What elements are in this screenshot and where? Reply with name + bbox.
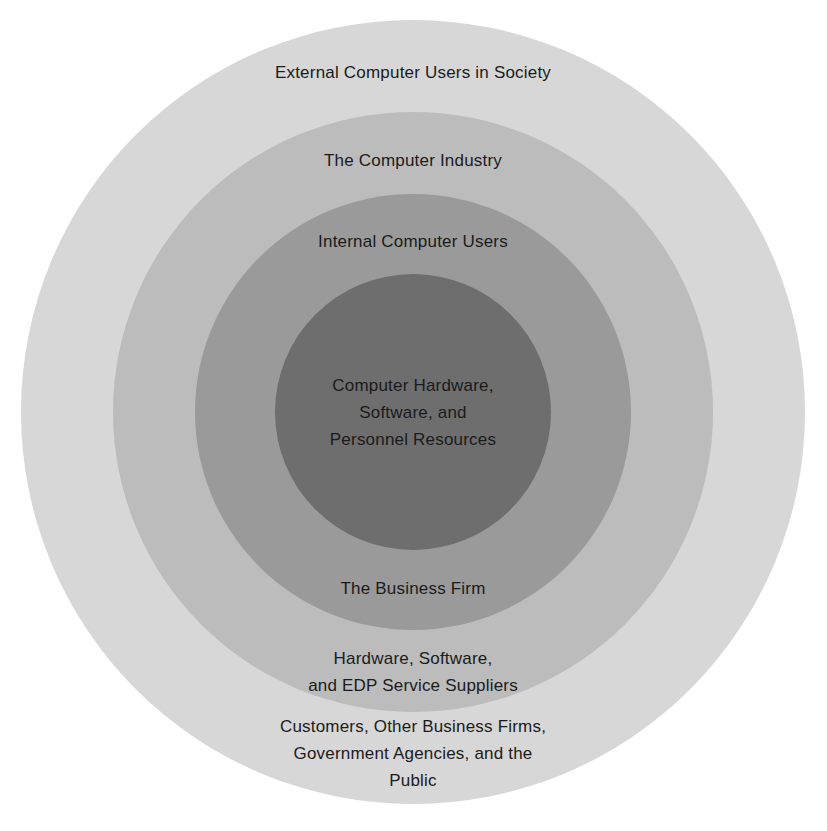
label-core-line-3: Personnel Resources <box>330 426 496 453</box>
label-business-firm-line-1: The Business Firm <box>340 576 485 601</box>
label-core-line-1: Computer Hardware, <box>330 372 496 399</box>
label-internal-computer-users: Internal Computer Users <box>318 229 508 254</box>
label-external-line-1: External Computer Users in Society <box>275 60 551 85</box>
label-suppliers-line-2: and EDP Service Suppliers <box>308 672 518 699</box>
label-customers-line-3: Public <box>280 767 546 794</box>
label-customers-government-public: Customers, Other Business Firms, Governm… <box>280 713 546 794</box>
label-industry-line-1: The Computer Industry <box>324 148 502 173</box>
label-customers-line-2: Government Agencies, and the <box>280 740 546 767</box>
label-business-firm: The Business Firm <box>340 576 485 601</box>
label-hardware-software-suppliers: Hardware, Software, and EDP Service Supp… <box>308 645 518 699</box>
label-internal-line-1: Internal Computer Users <box>318 229 508 254</box>
label-customers-line-1: Customers, Other Business Firms, <box>280 713 546 740</box>
label-computer-industry: The Computer Industry <box>324 148 502 173</box>
label-suppliers-line-1: Hardware, Software, <box>308 645 518 672</box>
label-external-computer-users: External Computer Users in Society <box>275 60 551 85</box>
label-core-line-2: Software, and <box>330 399 496 426</box>
concentric-circles-diagram: External Computer Users in Society The C… <box>0 0 827 831</box>
label-core-resources: Computer Hardware, Software, and Personn… <box>330 372 496 453</box>
